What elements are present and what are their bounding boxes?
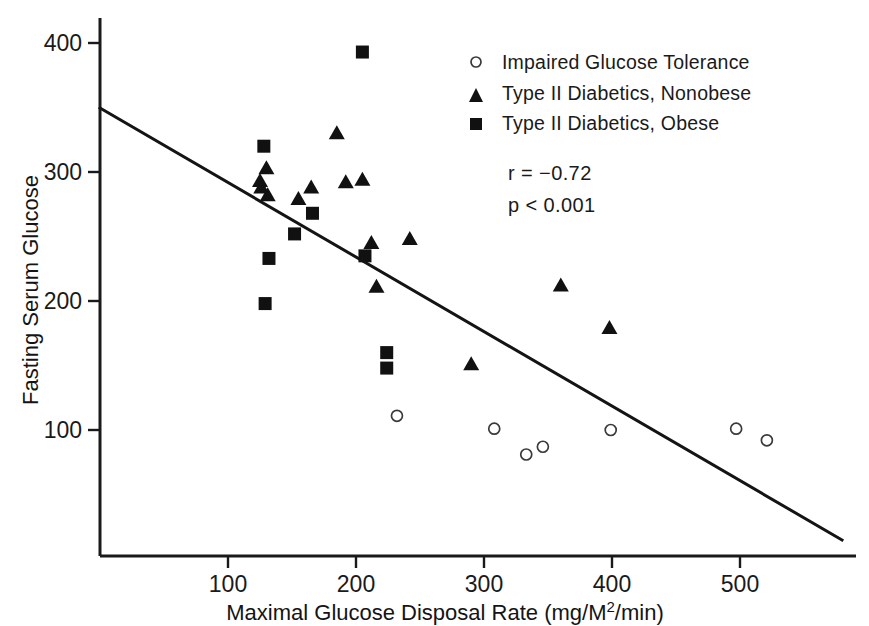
data-markers-group: [252, 46, 772, 460]
legend-item-type-ii-diabetics-nonobese: Type II Diabetics, Nonobese: [469, 82, 751, 104]
data-point-square: [306, 207, 319, 220]
data-point-triangle: [338, 174, 354, 188]
data-point-square: [356, 46, 369, 59]
scatter-plot-figure: 400 300 200 100 100 200 300 400 500 Maxi…: [0, 0, 869, 626]
data-point-circle: [605, 425, 616, 436]
data-point-circle: [731, 423, 742, 434]
legend-item-type-ii-diabetics-obese: Type II Diabetics, Obese: [470, 112, 719, 134]
data-point-triangle: [354, 172, 370, 186]
x-tick-label-400: 400: [593, 571, 631, 597]
data-point-circle: [537, 441, 548, 452]
x-axis-title-post: /min): [615, 600, 664, 625]
data-point-circle: [391, 410, 402, 421]
chart-svg: 400 300 200 100 100 200 300 400 500 Maxi…: [0, 0, 869, 626]
x-tick-label-300: 300: [465, 571, 503, 597]
data-point-triangle: [553, 278, 569, 292]
legend: Impaired Glucose Tolerance Type II Diabe…: [469, 51, 751, 134]
filled-square-icon: [470, 118, 482, 130]
data-point-triangle: [363, 235, 379, 249]
data-point-triangle: [329, 125, 345, 139]
pvalue-annotation: p < 0.001: [508, 194, 596, 216]
x-axis-title-pre: Maximal Glucose Disposal Rate (mg/M: [226, 600, 606, 625]
data-point-square: [288, 227, 301, 240]
legend-label-2: Type II Diabetics, Obese: [502, 112, 719, 134]
x-tick-label-500: 500: [721, 571, 759, 597]
data-point-triangle: [258, 160, 274, 174]
data-point-square: [380, 346, 393, 359]
data-point-triangle: [402, 231, 418, 245]
regression-line: [100, 108, 842, 540]
data-point-circle: [761, 435, 772, 446]
x-axis-title: Maximal Glucose Disposal Rate (mg/M2/min…: [226, 598, 663, 625]
data-point-triangle: [463, 356, 479, 370]
x-axis-title-sup: 2: [607, 598, 615, 615]
legend-item-impaired-glucose-tolerance: Impaired Glucose Tolerance: [471, 51, 750, 73]
data-point-square: [257, 140, 270, 153]
data-point-circle: [489, 423, 500, 434]
data-point-square: [380, 362, 393, 375]
data-point-triangle: [368, 279, 384, 293]
legend-label-1: Type II Diabetics, Nonobese: [502, 82, 751, 104]
correlation-annotation: r = −0.72: [508, 162, 592, 184]
y-tick-label-400: 400: [44, 30, 82, 56]
data-point-square: [358, 249, 371, 262]
data-point-triangle: [601, 320, 617, 334]
x-tick-label-100: 100: [209, 571, 247, 597]
data-point-square: [262, 252, 275, 265]
filled-triangle-icon: [469, 88, 483, 102]
y-tick-label-200: 200: [44, 288, 82, 314]
y-axis-title: Fasting Serum Glucose: [18, 175, 43, 405]
data-point-square: [259, 297, 272, 310]
x-axis-ticks: [228, 556, 740, 568]
series-0: [391, 410, 772, 460]
legend-label-0: Impaired Glucose Tolerance: [502, 51, 750, 73]
y-tick-label-100: 100: [44, 417, 82, 443]
data-point-triangle: [303, 179, 319, 193]
x-tick-label-200: 200: [337, 571, 375, 597]
data-point-circle: [521, 449, 532, 460]
y-axis-ticks: [88, 43, 100, 430]
open-circle-icon: [471, 57, 481, 67]
y-tick-label-300: 300: [44, 159, 82, 185]
